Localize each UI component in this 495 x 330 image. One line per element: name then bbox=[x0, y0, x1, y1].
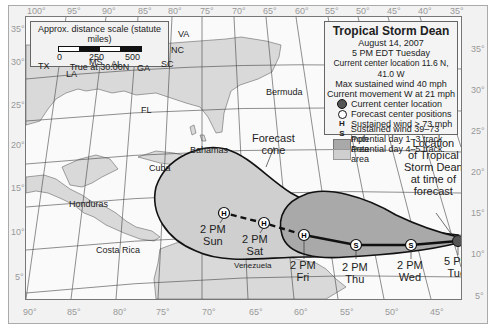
label-bermuda: Bermuda bbox=[266, 87, 303, 97]
lat-tick: 10° bbox=[11, 227, 25, 237]
s-symbol-icon: S bbox=[333, 129, 351, 139]
label-tx: TX bbox=[38, 61, 50, 71]
lat-tick: 15° bbox=[11, 183, 25, 193]
map-area: S S H H H Approx. distance scale (statut… bbox=[25, 16, 462, 300]
lon-tick: 60° bbox=[294, 307, 308, 317]
legend-max-wind: Max sustained wind 40 mph bbox=[325, 79, 457, 89]
lon-tick: 90° bbox=[102, 6, 116, 16]
lon-tick: 50° bbox=[385, 307, 399, 317]
label-ms: MS bbox=[89, 57, 103, 67]
legend: Tropical Storm Dean August 14, 2007 5 PM… bbox=[324, 21, 458, 135]
track-label-sat: 2 PMSat bbox=[242, 233, 268, 257]
legend-time: 5 PM EDT Tuesday bbox=[325, 48, 457, 58]
legend-title: Tropical Storm Dean bbox=[325, 25, 457, 38]
lon-tick: 70° bbox=[232, 6, 246, 16]
label-costa-rica: Costa Rica bbox=[96, 245, 140, 255]
lat-tick: 5° bbox=[475, 291, 484, 301]
forecast-cone-annotation: Forecastcone bbox=[252, 132, 295, 156]
label-nc: NC bbox=[171, 45, 184, 55]
label-venezuela: Venezuela bbox=[234, 261, 271, 271]
lon-tick: 65° bbox=[263, 6, 277, 16]
lat-tick: 30° bbox=[11, 57, 25, 67]
label-cuba: Cuba bbox=[149, 163, 171, 173]
lat-tick: 35° bbox=[471, 44, 485, 54]
track-label-thu: 2 PMThu bbox=[342, 261, 368, 285]
label-honduras: Honduras bbox=[69, 199, 108, 209]
lon-tick: 85° bbox=[67, 307, 81, 317]
lon-tick: 35° bbox=[450, 6, 464, 16]
svg-text:H: H bbox=[261, 219, 266, 228]
lat-tick: 35° bbox=[11, 24, 25, 34]
svg-text:H: H bbox=[221, 209, 226, 218]
lon-tick: 80° bbox=[168, 6, 182, 16]
label-ga: GA bbox=[137, 63, 150, 73]
h-symbol-icon: H bbox=[333, 119, 351, 129]
track-label-wed: 2 PMWed bbox=[397, 259, 423, 283]
location-annotation: Locationof Tropical Storm Deanat time of… bbox=[404, 137, 462, 197]
lon-tick: 75° bbox=[200, 6, 214, 16]
label-bahamas: Bahamas bbox=[190, 145, 228, 155]
legend-date: August 14, 2007 bbox=[325, 38, 457, 48]
svg-text:S: S bbox=[408, 241, 413, 250]
lon-tick: 65° bbox=[249, 307, 263, 317]
lon-tick: 55° bbox=[325, 6, 339, 16]
label-sc: SC bbox=[161, 59, 174, 69]
lat-tick: 5° bbox=[15, 272, 24, 282]
filled-circle-icon bbox=[337, 99, 347, 109]
lon-tick: 85° bbox=[138, 6, 152, 16]
svg-text:H: H bbox=[301, 231, 306, 240]
legend-location: Current center location 11.6 N, 41.0 W bbox=[325, 58, 457, 78]
scale-title: Approx. distance scale (statute miles) bbox=[31, 24, 168, 44]
legend-item-current: Current center location bbox=[333, 99, 457, 109]
lat-tick: 15° bbox=[471, 208, 485, 218]
lat-tick: 25° bbox=[471, 126, 485, 136]
legend-item-forecast: Forecast center positions bbox=[333, 109, 457, 119]
lon-tick: 45° bbox=[430, 307, 444, 317]
light-swatch-icon bbox=[333, 149, 351, 160]
lat-tick: 20° bbox=[471, 167, 485, 177]
scale-tick: 500 bbox=[125, 52, 140, 62]
label-la: LA bbox=[66, 69, 77, 79]
lon-tick: 90° bbox=[23, 307, 37, 317]
lat-tick: 30° bbox=[471, 85, 485, 95]
lat-tick: 10° bbox=[471, 249, 485, 259]
lon-tick: 75° bbox=[156, 307, 170, 317]
lon-tick: 45° bbox=[387, 6, 401, 16]
track-label-fri: 2 PMFri bbox=[290, 259, 316, 283]
scale-tick: 0 bbox=[57, 52, 62, 62]
svg-text:S: S bbox=[353, 241, 358, 250]
lon-tick: 55° bbox=[340, 307, 354, 317]
lon-tick: 60° bbox=[295, 6, 309, 16]
legend-movement: Current movement W at 21 mph bbox=[325, 89, 457, 99]
lon-tick: 80° bbox=[113, 307, 127, 317]
lon-tick: 70° bbox=[202, 307, 216, 317]
label-fl: FL bbox=[141, 105, 152, 115]
label-va: VA bbox=[178, 29, 189, 39]
lat-tick: 25° bbox=[11, 100, 25, 110]
lat-tick: 20° bbox=[11, 140, 25, 150]
track-label-tue: 5 PMTue bbox=[444, 255, 462, 279]
track-label-sun: 2 PMSun bbox=[200, 223, 226, 247]
lon-tick: 95° bbox=[67, 6, 81, 16]
cone-day-1-3 bbox=[280, 191, 458, 257]
open-circle-icon bbox=[338, 110, 347, 119]
label-al: AL bbox=[111, 59, 122, 69]
lon-tick: 50° bbox=[356, 6, 370, 16]
lon-tick: 100° bbox=[27, 6, 46, 16]
current-center-icon bbox=[453, 236, 462, 247]
lon-tick: 40° bbox=[418, 6, 432, 16]
